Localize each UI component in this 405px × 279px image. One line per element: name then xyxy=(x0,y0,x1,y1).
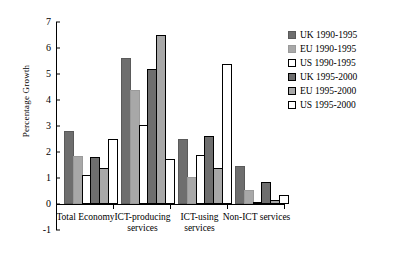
legend-item[interactable]: US 1995-2000 xyxy=(288,98,357,112)
bar-groups xyxy=(57,22,285,230)
legend-label: EU 1990-1995 xyxy=(300,44,356,54)
bar-group xyxy=(171,22,228,230)
y-tick-label: -1 xyxy=(43,225,51,235)
legend-label: US 1990-1995 xyxy=(300,58,356,68)
legend-item[interactable]: US 1990-1995 xyxy=(288,56,357,70)
y-tick-label: 3 xyxy=(46,121,51,131)
legend-item[interactable]: UK 1990-1995 xyxy=(288,28,357,42)
y-tick-label: 7 xyxy=(46,17,51,27)
plot-area: -101234567 xyxy=(56,22,278,230)
bar xyxy=(279,195,289,204)
y-tick-label: 6 xyxy=(46,43,51,53)
legend-item[interactable]: UK 1995-2000 xyxy=(288,70,357,84)
legend-swatch xyxy=(288,87,296,95)
y-tick-label: 5 xyxy=(46,69,51,79)
y-axis-title: Percentage Growth xyxy=(21,31,31,171)
bar-group xyxy=(114,22,171,230)
bar-chart: Percentage Growth -101234567 Total Econo… xyxy=(0,0,405,279)
y-tick-label: 1 xyxy=(46,173,51,183)
x-tick-mark xyxy=(170,204,171,209)
legend-label: UK 1995-2000 xyxy=(300,72,357,82)
legend-swatch xyxy=(288,101,296,109)
legend-label: US 1995-2000 xyxy=(300,100,356,110)
legend-swatch xyxy=(288,59,296,67)
legend-item[interactable]: EU 1995-2000 xyxy=(288,84,357,98)
x-tick-mark xyxy=(284,204,285,209)
legend-label: EU 1995-2000 xyxy=(300,86,356,96)
legend-label: UK 1990-1995 xyxy=(300,30,357,40)
x-tick-mark xyxy=(113,204,114,209)
y-tick-label: 4 xyxy=(46,95,51,105)
legend: UK 1990-1995EU 1990-1995US 1990-1995UK 1… xyxy=(288,28,357,112)
bar-group xyxy=(228,22,285,230)
legend-swatch xyxy=(288,73,296,81)
bar-group xyxy=(57,22,114,230)
category-label: Non-ICT services xyxy=(222,212,291,223)
legend-item[interactable]: EU 1990-1995 xyxy=(288,42,357,56)
legend-swatch xyxy=(288,45,296,53)
legend-swatch xyxy=(288,31,296,39)
x-tick-mark xyxy=(227,204,228,209)
y-tick-label: 2 xyxy=(46,147,51,157)
y-tick-label: 0 xyxy=(46,199,51,209)
